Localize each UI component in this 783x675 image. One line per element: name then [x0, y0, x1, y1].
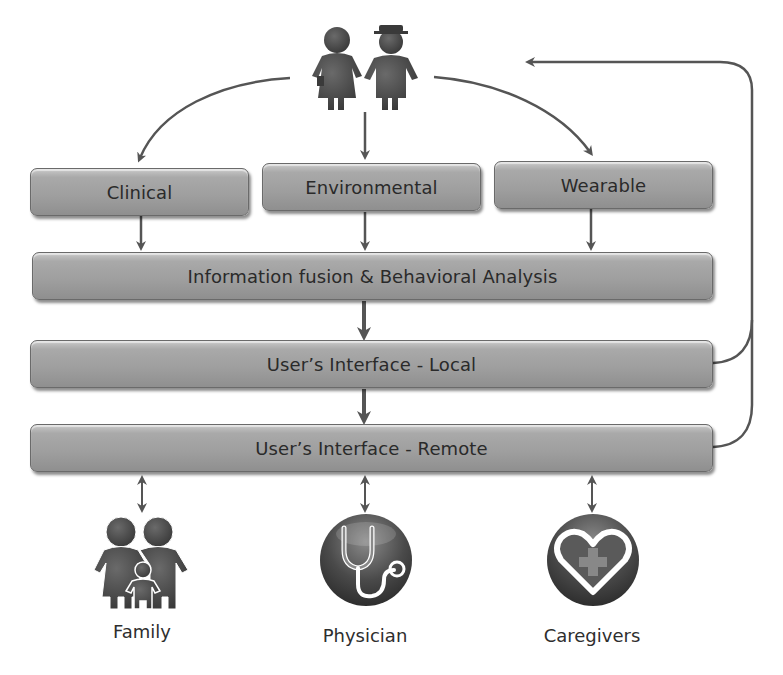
- stakeholder-physician-label: Physician: [295, 625, 435, 646]
- stakeholder-family-label: Family: [72, 621, 212, 642]
- source-wearable-label: Wearable: [561, 175, 647, 196]
- information-fusion-box: Information fusion & Behavioral Analysis: [32, 252, 713, 300]
- source-clinical-box: Clinical: [30, 168, 249, 216]
- ui-local-box: User’s Interface - Local: [30, 340, 713, 388]
- heart-plus-icon: [545, 512, 641, 608]
- stethoscope-icon: [318, 512, 414, 608]
- source-clinical-label: Clinical: [107, 182, 173, 203]
- information-fusion-label: Information fusion & Behavioral Analysis: [188, 266, 558, 287]
- ui-local-label: User’s Interface - Local: [267, 354, 476, 375]
- source-wearable-box: Wearable: [494, 161, 713, 209]
- source-environmental-box: Environmental: [262, 163, 481, 211]
- diagram-canvas: Clinical Environmental Wearable Informat…: [0, 0, 783, 675]
- source-environmental-label: Environmental: [305, 177, 437, 198]
- elderly-couple-icon: [300, 18, 430, 110]
- ui-remote-label: User’s Interface - Remote: [255, 438, 487, 459]
- stakeholder-caregivers-label: Caregivers: [522, 625, 662, 646]
- family-icon: [92, 515, 192, 610]
- ui-remote-box: User’s Interface - Remote: [30, 424, 713, 472]
